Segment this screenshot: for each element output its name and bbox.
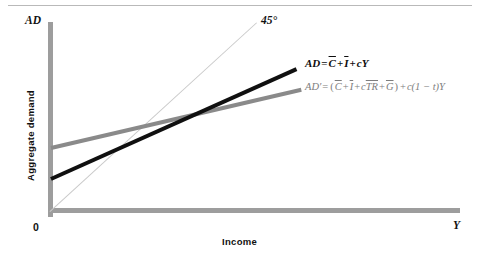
ad-equation-label: AD=C+I+cY bbox=[305, 57, 368, 69]
adp-eq-plus-4: + bbox=[399, 81, 407, 92]
ad-eq-plus-2: + bbox=[348, 57, 356, 69]
ad-prime-equation-label: AD′=(C+I+cTR+G)+c(1 − t)Y bbox=[305, 81, 445, 92]
origin-label: 0 bbox=[33, 221, 39, 233]
ad-eq-c-bar: C bbox=[329, 57, 336, 69]
adp-eq-plus-3: + bbox=[378, 81, 386, 92]
ad-eq-plus-1: + bbox=[336, 57, 344, 69]
ad-eq-equals: = bbox=[320, 57, 328, 69]
x-axis-symbol: Y bbox=[453, 219, 460, 231]
x-axis bbox=[48, 208, 460, 213]
forty-five-degree-label: 45° bbox=[261, 14, 277, 26]
adp-eq-g-bar: G bbox=[386, 81, 394, 92]
ad-eq-lhs: AD bbox=[305, 57, 320, 69]
adp-eq-plus-2: + bbox=[353, 81, 361, 92]
figure-top-rule bbox=[8, 5, 472, 6]
forty-five-degree-line bbox=[50, 22, 258, 212]
adp-eq-tail: c(1 − t)Y bbox=[407, 81, 445, 92]
y-axis-title: Aggregate demand bbox=[25, 76, 36, 196]
ad-eq-cy: cY bbox=[357, 57, 369, 69]
adp-eq-plus-1: + bbox=[342, 81, 350, 92]
figure-canvas: AD Y 0 Income Aggregate demand 45° AD=C+… bbox=[0, 0, 480, 259]
x-axis-title: Income bbox=[222, 236, 257, 247]
y-axis-symbol: AD bbox=[25, 14, 41, 26]
adp-eq-c-bar: C bbox=[335, 81, 342, 92]
adp-eq-tr-bar: TR bbox=[366, 81, 378, 92]
y-axis bbox=[48, 22, 53, 217]
adp-eq-lhs: AD′ bbox=[305, 81, 321, 92]
ad-line bbox=[50, 67, 297, 181]
